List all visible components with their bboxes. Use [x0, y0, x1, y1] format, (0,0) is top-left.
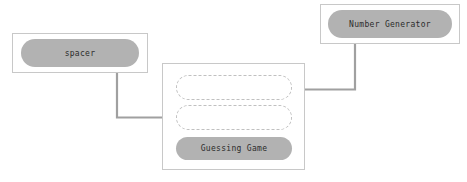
node-spacer-label[interactable]: spacer: [21, 39, 139, 67]
drop-slot-top[interactable]: [176, 75, 292, 100]
drop-slot-bottom[interactable]: [176, 105, 292, 130]
diagram-canvas: spacer Number Generator Guessing Game: [0, 0, 467, 182]
node-guessing-game-label[interactable]: Guessing Game: [176, 137, 292, 160]
node-number-generator-label[interactable]: Number Generator: [328, 10, 452, 38]
